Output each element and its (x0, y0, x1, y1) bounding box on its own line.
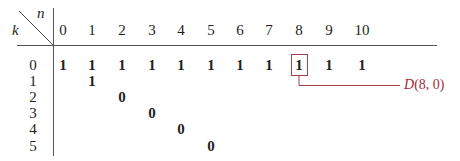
highlight-box (291, 54, 308, 76)
table-cell: 0 (140, 105, 164, 121)
corner-n-label: n (37, 5, 45, 22)
col-header: 2 (110, 22, 134, 38)
col-header: 7 (257, 22, 281, 38)
table-cell: 1 (350, 57, 374, 73)
col-header: 9 (317, 22, 341, 38)
corner-diagonal (19, 11, 53, 45)
col-header: 10 (350, 22, 374, 38)
callout-func: D (404, 77, 414, 92)
corner-k-label: k (12, 22, 19, 39)
table-cell: 1 (169, 57, 193, 73)
table-cell: 1 (80, 57, 104, 73)
table-cell: 1 (228, 57, 252, 73)
table-cell: 0 (199, 138, 223, 154)
col-header: 8 (287, 22, 311, 38)
table-cell: 1 (317, 57, 341, 73)
table-cell: 0 (169, 121, 193, 137)
table-cell: 1 (257, 57, 281, 73)
col-header: 5 (199, 22, 223, 38)
row-label: 4 (23, 121, 43, 137)
col-header: 4 (169, 22, 193, 38)
col-header: 3 (140, 22, 164, 38)
table-cell: 1 (110, 57, 134, 73)
table-cell: 1 (199, 57, 223, 73)
callout-label: D(8, 0) (404, 77, 444, 93)
row-label: 0 (23, 57, 43, 73)
table-cell: 1 (51, 57, 75, 73)
col-header: 6 (228, 22, 252, 38)
col-header: 1 (80, 22, 104, 38)
table-cell: 0 (110, 89, 134, 105)
callout-connector (299, 75, 400, 86)
table-cell: 1 (80, 73, 104, 89)
row-label: 5 (23, 138, 43, 154)
row-label: 1 (23, 73, 43, 89)
table-cell: 1 (140, 57, 164, 73)
row-label: 2 (23, 89, 43, 105)
callout-args: (8, 0) (414, 77, 444, 92)
row-label: 3 (23, 105, 43, 121)
col-header: 0 (51, 22, 75, 38)
